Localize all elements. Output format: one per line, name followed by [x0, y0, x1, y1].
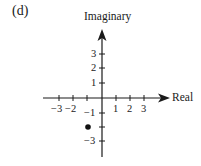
- x-tick-label: 1: [113, 104, 118, 115]
- y-tick-label: −3: [84, 136, 95, 147]
- data-point: [85, 124, 91, 130]
- complex-plane: [0, 0, 201, 166]
- y-tick-label: 2: [91, 63, 96, 74]
- y-tick-label: 1: [91, 78, 96, 89]
- x-tick-label: 3: [141, 104, 146, 115]
- x-tick-label: −3: [51, 104, 62, 115]
- y-tick-label: 3: [91, 49, 96, 60]
- x-tick-label: 2: [127, 104, 132, 115]
- x-tick-label: −2: [65, 104, 76, 115]
- y-tick-label: −1: [84, 108, 95, 119]
